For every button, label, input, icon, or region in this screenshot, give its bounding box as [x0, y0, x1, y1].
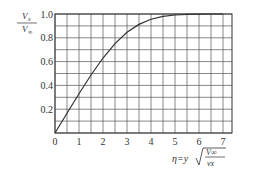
svg-text:0.2: 0.2 [41, 104, 54, 115]
svg-text:0: 0 [53, 136, 58, 147]
svg-text:4: 4 [149, 136, 154, 147]
y-axis-label: V x V ∞ [17, 11, 37, 35]
svg-text:3: 3 [125, 136, 130, 147]
x-axis-label: η=y V∞ νx [172, 148, 226, 168]
svg-text:7: 7 [221, 136, 226, 147]
svg-text:5: 5 [173, 136, 178, 147]
svg-text:1.0: 1.0 [41, 9, 54, 20]
svg-text:νx: νx [207, 159, 215, 168]
svg-text:0.8: 0.8 [41, 32, 54, 43]
velocity-profile-chart: 0.20.40.60.81.0 01234567 η=y V∞ νx V x V… [0, 0, 255, 180]
x-axis-ticks: 01234567 [53, 136, 226, 147]
svg-text:x: x [27, 16, 31, 22]
svg-text:0.4: 0.4 [41, 80, 54, 91]
svg-text:V∞: V∞ [206, 148, 217, 157]
svg-text:6: 6 [197, 136, 202, 147]
svg-text:∞: ∞ [28, 29, 33, 35]
svg-text:1: 1 [77, 136, 82, 147]
grid-lines [55, 14, 232, 133]
svg-text:0.6: 0.6 [41, 56, 54, 67]
svg-text:η=y: η=y [172, 153, 189, 164]
svg-text:2: 2 [101, 136, 106, 147]
y-axis-ticks: 0.20.40.60.81.0 [41, 9, 54, 115]
